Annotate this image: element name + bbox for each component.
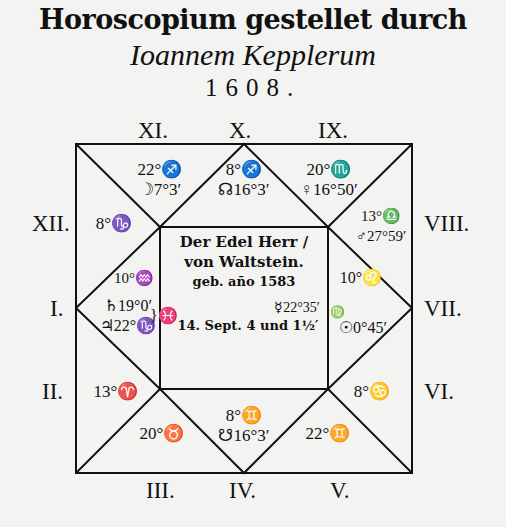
house-label-x: X. — [229, 118, 251, 144]
cusp-viii: 13°♎ — [350, 206, 412, 226]
house-label-ii: II. — [42, 379, 63, 405]
center-line-4: 14. Sept. 4 und 1½′ — [170, 316, 326, 336]
center-line-1: Der Edel Herr / — [162, 232, 326, 252]
cusp-xii: 8°♑ — [92, 214, 136, 234]
cell-house-iv: 8°♊ ☋16°3′ — [212, 406, 276, 446]
house-label-iii: III. — [146, 478, 175, 504]
house-label-viii: VIII. — [424, 211, 469, 237]
planet-mars: ♂27°59′ — [350, 226, 412, 246]
cell-house-vii-cusp: 10°♌ — [336, 268, 386, 288]
cell-house-ii: 13°♈ — [88, 382, 144, 402]
planet-north-node: ☊16°3′ — [212, 180, 276, 200]
cell-house-ix: 20°♏ ♀16°50′ — [296, 160, 362, 200]
cusp-ii: 13°♈ — [88, 382, 144, 402]
planet-venus: ♀16°50′ — [296, 180, 362, 200]
cusp-ix: 20°♏ — [296, 160, 362, 180]
house-label-xii: XII. — [32, 211, 70, 237]
cusp-vi: 8°♋ — [346, 382, 398, 402]
house-label-i: I. — [50, 296, 63, 322]
planet-sun: ☉0°45′ — [330, 318, 396, 338]
center-line-2: von Waltstein. — [162, 252, 326, 272]
cusp-vii: 10°♌ — [336, 268, 386, 288]
cusp-x: 8°♐ — [212, 160, 276, 180]
house-label-vi: VI. — [424, 379, 454, 405]
center-inscription: Der Edel Herr / von Waltstein. geb. año … — [162, 232, 326, 292]
house-label-vii: VII. — [424, 296, 462, 322]
cell-house-i-cusp: 10°♒ — [110, 268, 158, 288]
cell-house-v: 22°♊ — [300, 424, 356, 444]
cusp-iv: 8°♊ — [212, 406, 276, 426]
house-label-v: V. — [330, 478, 349, 504]
planet-mercury: ☿22°35′ — [266, 298, 328, 318]
house-label-xi: XI. — [138, 118, 168, 144]
house-label-iv: IV. — [229, 478, 256, 504]
cusp-xi: 22°♐ — [130, 160, 190, 180]
cell-house-xii: 8°♑ — [92, 214, 136, 234]
cusp-v: 22°♊ — [300, 424, 356, 444]
planet-moon: ☽7°3′ — [130, 180, 190, 200]
cell-house-viii: 13°♎ ♂27°59′ — [350, 206, 412, 246]
cell-house-vi: 8°♋ — [346, 382, 398, 402]
cell-house-xi: 22°♐ ☽7°3′ — [130, 160, 190, 200]
cell-house-x: 8°♐ ☊16°3′ — [212, 160, 276, 200]
cell-house-iii: 20°♉ — [134, 424, 190, 444]
center-line-3: geb. año 1583 — [162, 272, 326, 292]
planet-south-node: ☋16°3′ — [212, 426, 276, 446]
cusp-iii: 20°♉ — [134, 424, 190, 444]
cusp-i: 10°♒ — [110, 268, 158, 288]
house-label-ix: IX. — [318, 118, 348, 144]
